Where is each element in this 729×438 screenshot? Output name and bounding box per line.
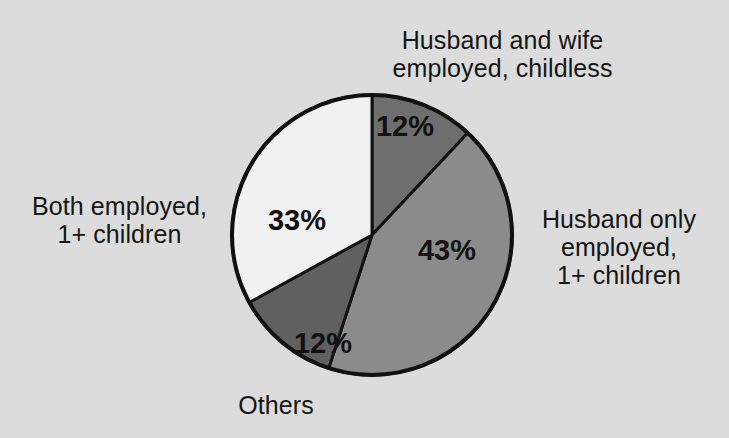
pie-chart-figure: 12% 43% 12% 33% Husband and wife employe… xyxy=(0,0,729,438)
slice-value-top: 12% xyxy=(376,110,434,142)
callout-label-top: Husband and wife employed, childless xyxy=(350,26,655,82)
callout-label-right: Husband only employed, 1+ children xyxy=(519,205,719,289)
callout-label-bottom: Others xyxy=(196,391,356,419)
slice-value-right: 43% xyxy=(418,234,476,266)
callout-label-left: Both employed, 1+ children xyxy=(12,192,227,248)
slice-value-bottom: 12% xyxy=(294,327,352,359)
slice-value-left: 33% xyxy=(268,204,326,236)
